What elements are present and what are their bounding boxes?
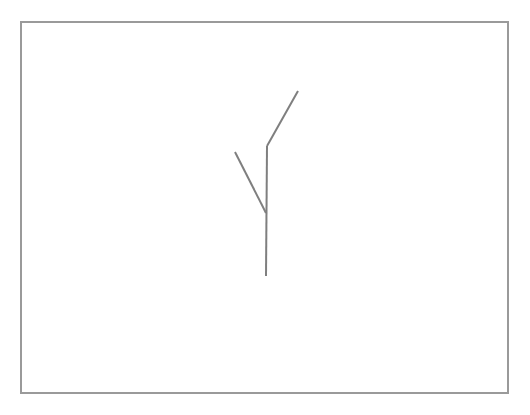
- vertical-trunk: [266, 146, 267, 276]
- figure-stroke-group: [235, 91, 298, 276]
- upper-right-branch: [267, 91, 298, 146]
- line-drawing-figure: [0, 0, 530, 415]
- drawing-border-frame: [21, 22, 508, 393]
- left-branch: [235, 152, 266, 213]
- drawing-canvas: [0, 0, 530, 415]
